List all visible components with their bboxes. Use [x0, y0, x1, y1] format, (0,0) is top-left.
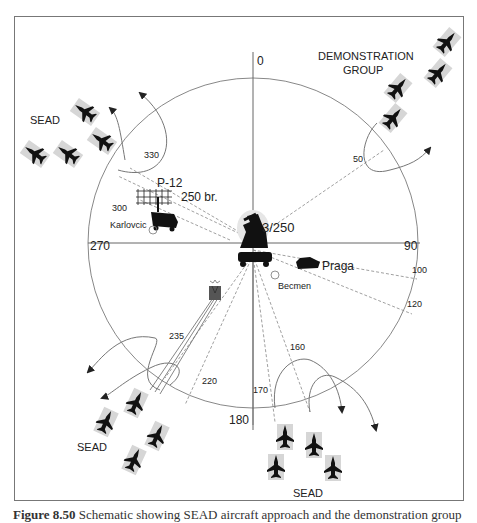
becmen-marker-icon [271, 271, 279, 279]
label-330: 330 [144, 150, 159, 160]
fighter-jet-icon [69, 97, 101, 127]
bearing-180: 180 [229, 413, 249, 427]
figure-caption: Figure 8.50 Schematic showing SEAD aircr… [13, 507, 462, 523]
fighter-jet-icon [122, 387, 149, 418]
fighter-jet-icon [143, 420, 170, 451]
fighter-jet-icon [383, 72, 414, 103]
truck-icon [151, 212, 178, 232]
label-120: 120 [407, 299, 422, 309]
small-radar-icon [209, 280, 221, 300]
label-160: 160 [290, 342, 305, 352]
radial-300 [130, 168, 253, 240]
caption-text: Schematic showing SEAD aircraft approach… [76, 507, 462, 522]
radial-235 [165, 255, 253, 378]
sead-s-label: SEAD [293, 487, 323, 499]
bearing-90: 90 [404, 239, 418, 253]
label-100: 100 [412, 265, 427, 275]
label-220: 220 [202, 376, 217, 386]
praga-label: Praga [322, 259, 354, 273]
fighter-jet-icon [19, 139, 51, 169]
fighter-jet-icon [324, 455, 342, 481]
radial-330 [118, 176, 253, 240]
fighter-jet-icon [86, 126, 118, 156]
becmen-label: Becmen [278, 281, 311, 291]
demonstration-label-1: DEMONSTRATION [318, 50, 414, 62]
center-system-label: 3/250 [262, 220, 295, 235]
label-300: 300 [112, 203, 127, 213]
sead-nw-label: SEAD [30, 114, 60, 126]
path-s-2 [309, 375, 376, 430]
caption-prefix: Figure 8.50 [13, 507, 76, 522]
bearing-270: 270 [90, 239, 110, 253]
tank-icon [296, 257, 320, 269]
fighter-jet-icon [120, 444, 147, 475]
bearing-0: 0 [257, 54, 264, 68]
fighter-jet-icon [92, 406, 119, 437]
path-s-1 [274, 359, 342, 412]
radial-220 [185, 255, 253, 405]
label-235: 235 [169, 331, 184, 341]
radar-name: P-12 [157, 176, 183, 190]
fighter-jet-icon [305, 432, 323, 458]
label-50: 50 [353, 154, 363, 164]
path-sw-1 [88, 337, 160, 390]
label-170: 170 [253, 385, 268, 395]
radial-170 [253, 255, 275, 422]
fighter-jet-icon [378, 102, 409, 133]
demonstration-label-2: GROUP [343, 64, 383, 76]
fighter-jet-icon [432, 26, 463, 57]
radar-brigade: 250 br. [181, 190, 218, 204]
sam-launcher-icon [237, 210, 272, 267]
fighter-jet-icon [267, 454, 285, 480]
karlovcic-label: Karlovcic [110, 220, 147, 230]
sead-sw-label: SEAD [77, 441, 107, 453]
fighter-jet-icon [276, 424, 294, 450]
path-nw-1 [110, 108, 125, 160]
fighter-jet-icon [423, 57, 454, 88]
fighter-jet-icon [52, 139, 84, 169]
path-nw-2 [118, 93, 167, 173]
